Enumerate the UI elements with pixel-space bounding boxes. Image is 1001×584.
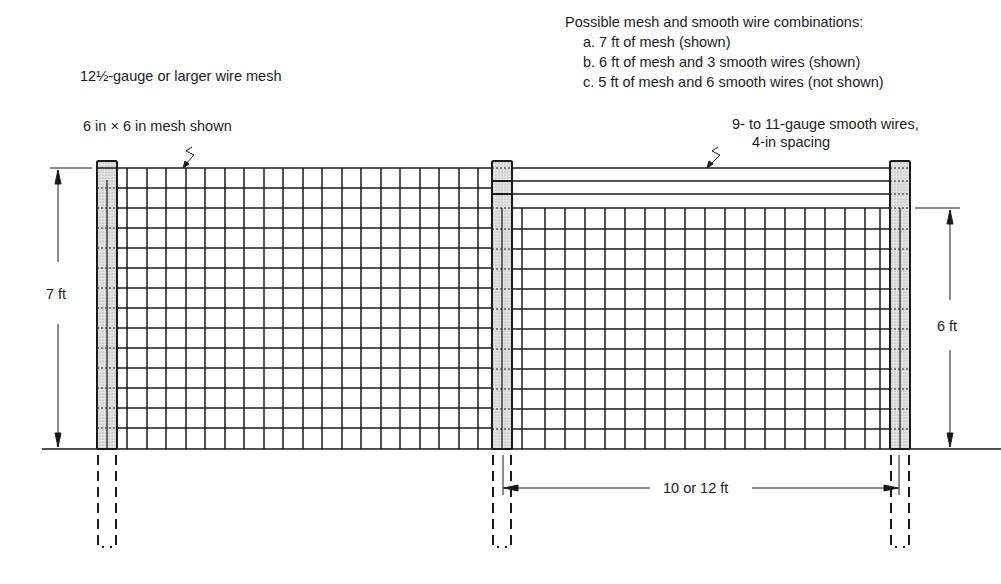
combination-item-b: b. 6 ft of mesh and 3 smooth wires (show… <box>565 52 884 72</box>
right-wire-mesh <box>512 208 890 449</box>
dimension-7ft <box>50 168 92 447</box>
mesh-size-label: 6 in × 6 in mesh shown <box>83 118 232 135</box>
mesh-leader-arrow <box>183 147 194 168</box>
combination-item-a: a. 7 ft of mesh (shown) <box>565 32 884 52</box>
smooth-wire-leader-arrow <box>707 147 720 168</box>
mesh-gauge-label: 12½-gauge or larger wire mesh <box>80 68 282 85</box>
combinations-list: Possible mesh and smooth wire combinatio… <box>565 12 884 92</box>
smooth-wire-label-line2: 4-in spacing <box>752 134 830 151</box>
fence-post-right <box>890 161 910 449</box>
left-wire-mesh <box>117 168 492 449</box>
height-label-7ft: 7 ft <box>46 286 66 303</box>
smooth-wire-label-line1: 9- to 11-gauge smooth wires, <box>732 116 919 133</box>
combination-item-c: c. 5 ft of mesh and 6 smooth wires (not … <box>565 72 884 92</box>
smooth-wires <box>512 168 890 194</box>
height-label-6ft: 6 ft <box>937 318 957 335</box>
post-spacing-label: 10 or 12 ft <box>663 480 728 497</box>
combinations-heading: Possible mesh and smooth wire combinatio… <box>565 12 884 32</box>
fence-post-left <box>97 161 117 449</box>
fence-post-middle <box>492 161 512 449</box>
